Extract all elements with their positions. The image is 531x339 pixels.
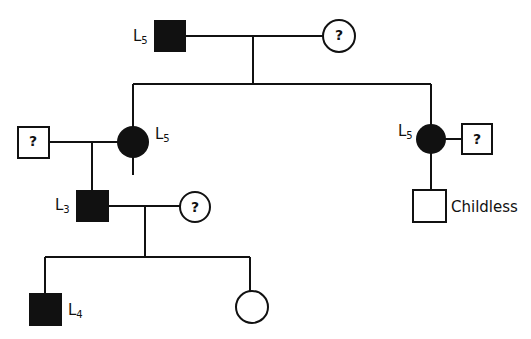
childless-male-gen3 [413,190,446,222]
affected-female-gen2-left [117,126,149,158]
affected-male-gen3 [76,190,109,222]
affected-male-gen4 [29,293,62,326]
unaffected-female-gen4 [236,291,268,323]
label-gen2-right: L5 [398,124,413,141]
question-mark-gen2-right-spouse: ? [467,131,487,147]
affected-female-gen2-right [416,124,446,154]
label-gen1-father: L5 [133,29,148,46]
question-mark-gen2-left-spouse: ? [23,133,43,149]
pedigree-diagram [0,0,531,339]
label-childless: Childless [451,200,518,215]
affected-male-gen1 [154,20,186,52]
label-gen4-son: L4 [68,303,83,320]
label-gen3-left: L3 [55,198,70,215]
question-mark-gen1-mother: ? [329,27,349,43]
question-mark-gen3-spouse: ? [185,199,205,215]
label-gen2-left: L5 [155,127,170,144]
